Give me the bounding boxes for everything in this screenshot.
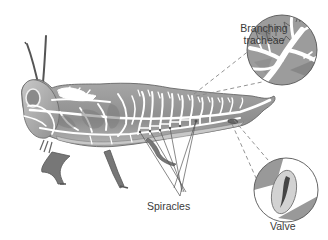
- branching-tracheae-label-line1: Branching: [236, 22, 292, 34]
- legs: [40, 140, 128, 188]
- spiracles-label: Spiracles: [147, 200, 190, 212]
- grasshopper-diagram: Branching tracheae Spiracles Valve: [0, 0, 328, 240]
- valve-inset: [254, 156, 320, 224]
- branching-tracheae-label-line2: tracheae: [236, 34, 292, 46]
- valve-label: Valve: [270, 220, 296, 232]
- branching-tracheae-label: Branching tracheae: [236, 22, 292, 46]
